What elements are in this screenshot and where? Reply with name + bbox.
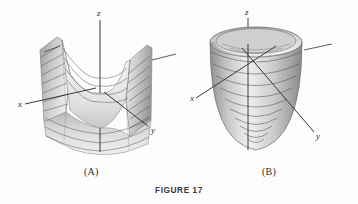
axis-label-x-a: x: [17, 99, 22, 109]
figure-panel-a: x y z: [0, 0, 180, 160]
panel-label-a: (A): [84, 166, 98, 177]
axis-label-z-a: z: [96, 8, 101, 18]
axis-label-z-b: z: [244, 7, 249, 17]
figure-panel-b: x y z: [180, 0, 358, 160]
figure-page: x y z: [0, 0, 358, 204]
axis-label-x-b: x: [189, 93, 194, 103]
axis-label-y-b: y: [315, 131, 320, 141]
axis-line-y-b-far: [304, 44, 332, 50]
saddle-left-wing: [40, 37, 70, 122]
saddle-valley: [62, 40, 130, 128]
axis-label-y-a: y: [150, 125, 155, 135]
paraboloid-outer-wall: [210, 42, 302, 150]
paraboloid-surface: [210, 27, 302, 150]
saddle-surface: [40, 37, 152, 155]
figure-caption: FIGURE 17: [14, 185, 343, 195]
panel-label-b: (B): [262, 166, 276, 177]
axis-line-y-a-far: [152, 54, 176, 60]
